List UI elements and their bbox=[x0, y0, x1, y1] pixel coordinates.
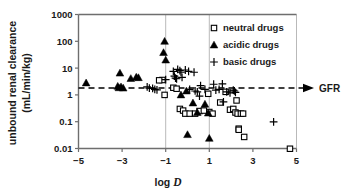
x-tick-label-5: 5 bbox=[294, 155, 300, 166]
y-tick-label-0: 0.01 bbox=[54, 143, 73, 154]
data-point-neutral-drugs-12 bbox=[206, 91, 211, 96]
x-tick-label-0: −5 bbox=[73, 155, 85, 166]
x-tick-label-4: 3 bbox=[250, 155, 255, 166]
figure-container: 0.010.11101001000 −5−3−1135 GFR neutral … bbox=[0, 0, 363, 193]
data-point-neutral-drugs-27 bbox=[287, 146, 292, 151]
data-point-neutral-drugs-25 bbox=[240, 111, 245, 116]
data-point-neutral-drugs-20 bbox=[234, 98, 239, 103]
scatter-chart: 0.010.11101001000 −5−3−1135 GFR neutral … bbox=[0, 0, 363, 193]
y-tick-label-4: 100 bbox=[57, 36, 73, 47]
legend-item-neutral-drugs[interactable]: neutral drugs bbox=[211, 22, 283, 33]
x-tick-label-2: −1 bbox=[160, 155, 172, 166]
data-point-neutral-drugs-2 bbox=[156, 78, 161, 83]
y-tick-label-1: 0.1 bbox=[59, 116, 73, 127]
x-tick-label-1: −3 bbox=[117, 155, 128, 166]
y-tick-label-2: 1 bbox=[67, 89, 73, 100]
x-axis-title-symbol: D bbox=[172, 176, 182, 188]
x-axis-title: log D bbox=[155, 176, 183, 188]
legend-label-0: neutral drugs bbox=[223, 22, 284, 33]
y-axis-title-line1: unbound renal clearance bbox=[6, 21, 18, 145]
data-point-neutral-drugs-11 bbox=[201, 108, 206, 113]
data-point-neutral-drugs-4 bbox=[174, 86, 179, 91]
data-point-neutral-drugs-23 bbox=[236, 127, 241, 132]
data-point-neutral-drugs-0 bbox=[162, 92, 167, 97]
y-tick-label-5: 1000 bbox=[51, 9, 72, 20]
y-tick-label-3: 10 bbox=[62, 63, 73, 74]
legend-label-2: basic drugs bbox=[223, 56, 276, 67]
x-axis-title-word: log bbox=[155, 176, 174, 188]
data-point-neutral-drugs-26 bbox=[241, 134, 246, 139]
legend-label-1: acidic drugs bbox=[223, 39, 279, 50]
gfr-label: GFR bbox=[319, 83, 341, 94]
data-point-neutral-drugs-marker-legend bbox=[211, 25, 216, 30]
x-tick-label-3: 1 bbox=[207, 155, 213, 166]
y-axis-title-line2: (mL/min/kg) bbox=[20, 53, 32, 113]
data-point-neutral-drugs-8 bbox=[187, 111, 192, 116]
data-point-neutral-drugs-15 bbox=[218, 100, 223, 105]
